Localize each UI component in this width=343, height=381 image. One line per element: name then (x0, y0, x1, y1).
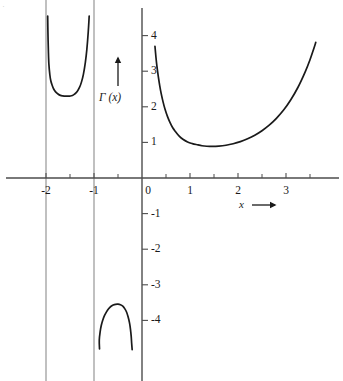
y-axis-label: Γ (x) (99, 92, 121, 104)
x-axis-tick-label: 2 (235, 185, 241, 197)
x-axis-arrow-head (270, 202, 277, 208)
gamma-curve-branch-2 (99, 304, 132, 349)
plot-canvas (0, 0, 343, 381)
y-axis-tick-label: 1 (151, 136, 157, 148)
gamma-curves (48, 16, 316, 350)
gamma-curve-branch-3 (155, 42, 316, 146)
axis-arrows (115, 57, 277, 209)
x-axis-label: x (239, 199, 244, 210)
y-axis-tick-label: -3 (151, 279, 161, 291)
y-axis-arrow-head (115, 57, 121, 64)
gamma-curve-branch-1 (48, 16, 90, 96)
x-axis-tick-label: 0 (145, 185, 151, 197)
x-axis-tick-label: -1 (89, 185, 99, 197)
y-axis-tick-label: 4 (151, 30, 157, 42)
gamma-function-figure: · Γ (x) x -2-101234321-1-2-3-4 (0, 0, 343, 381)
y-axis-tick-label: 2 (151, 101, 157, 113)
y-axis-tick-label: 3 (151, 65, 157, 77)
y-axis-tick-label: -4 (151, 314, 161, 326)
x-axis-tick-label: -2 (41, 185, 51, 197)
x-axis-tick-label: 1 (187, 185, 193, 197)
y-axis-tick-label: -1 (151, 208, 161, 220)
y-axis-tick-label: -2 (151, 243, 161, 255)
x-axis-tick-label: 3 (283, 185, 289, 197)
